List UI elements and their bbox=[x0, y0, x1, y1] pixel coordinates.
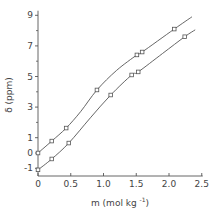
y-tick-label: -1 bbox=[24, 163, 33, 173]
data-point-square bbox=[183, 35, 187, 39]
y-tick-label: 1 bbox=[27, 133, 33, 143]
data-point-square bbox=[36, 168, 40, 172]
x-tick-label: 1.0 bbox=[96, 179, 111, 189]
y-tick-label: 5 bbox=[27, 72, 33, 82]
series-group bbox=[36, 17, 195, 172]
data-point-square bbox=[172, 27, 176, 31]
data-point-square bbox=[136, 70, 140, 74]
y-tick-label: 0 bbox=[27, 148, 33, 158]
y-tick-label: 9 bbox=[27, 10, 33, 20]
series-upper bbox=[36, 17, 192, 155]
x-tick-label: 0.5 bbox=[64, 179, 78, 189]
data-point-square bbox=[109, 93, 113, 97]
x-tick-label: 1.5 bbox=[129, 179, 143, 189]
x-tick-label: 2.0 bbox=[162, 179, 177, 189]
series-line bbox=[38, 30, 195, 170]
data-point-square bbox=[50, 157, 54, 161]
y-axis-label: δ (ppm) bbox=[4, 77, 14, 113]
series-line bbox=[38, 17, 192, 153]
x-axis-label: m (mol kg -1) bbox=[91, 196, 149, 208]
series-lower bbox=[36, 30, 195, 172]
data-point-square bbox=[64, 126, 68, 130]
x-tick-label: 0 bbox=[35, 179, 41, 189]
data-point-square bbox=[95, 88, 99, 92]
data-point-square bbox=[140, 50, 144, 54]
data-point-square bbox=[135, 53, 139, 57]
y-tick-label: 7 bbox=[27, 41, 33, 51]
y-tick-label: 3 bbox=[27, 102, 33, 112]
data-point-square bbox=[50, 139, 54, 143]
data-point-square bbox=[36, 151, 40, 155]
axis-labels: -101357900.51.01.52.02.5δ (ppm)m (mol kg… bbox=[4, 10, 209, 208]
data-point-square bbox=[130, 73, 134, 77]
chart: -101357900.51.01.52.02.5δ (ppm)m (mol kg… bbox=[0, 0, 214, 214]
data-point-square bbox=[67, 141, 71, 145]
x-tick-label: 2.5 bbox=[195, 179, 209, 189]
